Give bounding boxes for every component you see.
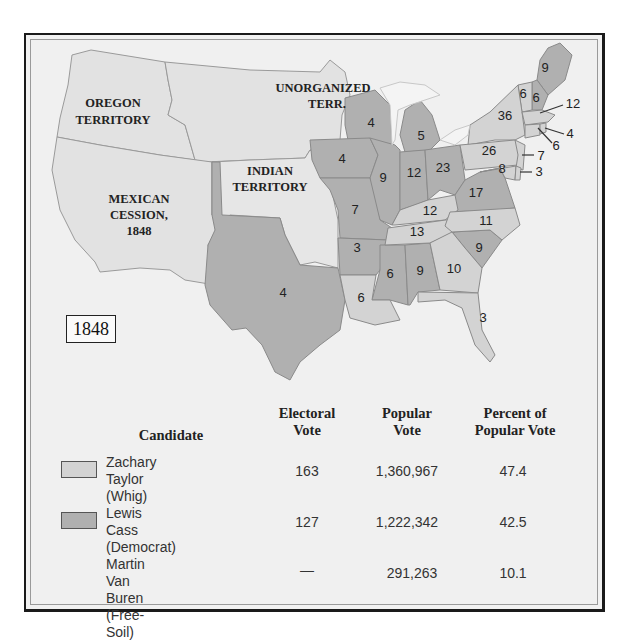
ev-ohio: 23 [436,160,450,175]
popular-cass: 1,222,342 [357,514,457,531]
ev-florida: 3 [479,310,486,325]
state-delaware [515,166,521,180]
ev-arkansas: 3 [353,240,360,255]
ev-missouri: 7 [351,202,358,217]
ev-massachusetts: 12 [566,96,580,111]
ev-new-york: 36 [498,108,512,123]
ev-mississippi: 6 [386,266,393,281]
state-connecticut [525,124,540,138]
header-percent-popular-vote: Percent ofPopular Vote [455,405,575,439]
ev-illinois: 9 [379,170,386,185]
ev-georgia: 10 [447,261,461,276]
year-label: 1848 [66,315,116,343]
svg-text:TERR.: TERR. [308,97,346,111]
ev-texas: 4 [279,285,286,300]
electoral-cass: 127 [262,514,352,531]
svg-text:OREGON: OREGON [85,96,141,110]
svg-text:1848: 1848 [127,224,152,238]
svg-text:INDIAN: INDIAN [247,164,293,178]
ev-connecticut: 6 [552,138,559,153]
ev-michigan: 5 [417,128,424,143]
svg-text:TERRITORY: TERRITORY [75,113,150,127]
ev-delaware: 3 [535,164,542,179]
header-electoral-vote: ElectoralVote [262,405,352,439]
header-popular-vote: PopularVote [362,405,452,439]
ev-new-hampshire: 6 [532,90,539,105]
candidate-van-buren: Martin Van Buren(Free-Soil) [106,556,145,641]
percent-van-buren: 10.1 [468,565,558,582]
ev-tennessee: 13 [410,224,424,239]
popular-van-buren: 291,263 [362,565,462,582]
lake-erie [440,125,470,145]
popular-taylor: 1,360,967 [357,463,457,480]
ev-maryland: 8 [498,161,505,176]
swatch-whig [61,461,97,478]
ev-iowa: 4 [338,151,345,166]
candidate-taylor: Zachary Taylor(Whig) [106,454,157,505]
ev-wisconsin: 4 [367,115,374,130]
state-florida [418,292,495,362]
electoral-van-buren: — [262,562,352,579]
percent-cass: 42.5 [468,514,558,531]
ev-kentucky: 12 [423,203,437,218]
svg-text:UNORGANIZED: UNORGANIZED [275,81,370,95]
state-new-york [468,85,525,145]
svg-text:MEXICAN: MEXICAN [108,192,169,206]
header-candidate: Candidate [116,427,226,444]
svg-text:CESSION,: CESSION, [110,208,168,222]
ev-indiana: 12 [407,165,421,180]
electoral-taylor: 163 [262,463,352,480]
ev-south-carolina: 9 [475,240,482,255]
swatch-democrat [61,512,97,529]
state-michigan [400,100,440,152]
ev-maine: 9 [541,60,548,75]
candidate-cass: Lewis Cass(Democrat) [106,505,176,556]
ev-vermont: 6 [519,86,526,101]
ev-alabama: 9 [416,263,423,278]
ev-rhode-island: 4 [566,126,573,141]
ev-virginia: 17 [469,185,483,200]
state-massachusetts [522,110,555,125]
ev-new-jersey: 7 [537,148,544,163]
ev-north-carolina: 11 [479,213,493,228]
ev-pennsylvania: 26 [482,143,496,158]
percent-taylor: 47.4 [468,463,558,480]
ev-louisiana: 6 [357,290,364,305]
svg-text:TERRITORY: TERRITORY [232,180,307,194]
